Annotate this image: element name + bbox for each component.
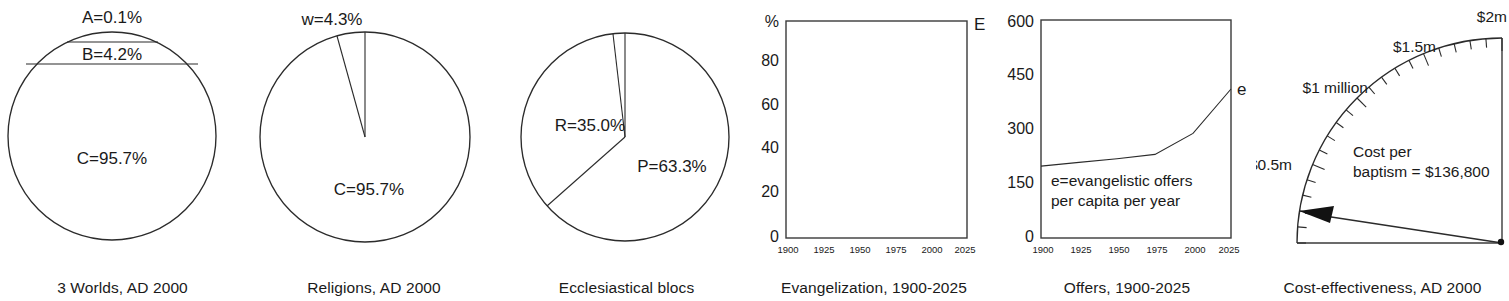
offers-xtick-1950: 1950 bbox=[1108, 244, 1129, 255]
gauge-minor-tick bbox=[1303, 195, 1312, 197]
gauge-minor-tick bbox=[1336, 123, 1343, 128]
gauge-minor-tick bbox=[1409, 60, 1413, 68]
evangelization-xtick-1950: 1950 bbox=[849, 244, 870, 255]
evangelization-y-unit: % bbox=[765, 13, 779, 30]
evangelization-plot-frame bbox=[786, 21, 967, 238]
evangelization-ytick-60: 60 bbox=[761, 96, 779, 113]
offers-xtick-1900: 1900 bbox=[1032, 244, 1053, 255]
figure-strip: A=0.1% B=4.2% C=95.7% 3 Worlds, AD 2000 … bbox=[0, 0, 1509, 301]
evangelization-xtick-1900: 1900 bbox=[777, 244, 798, 255]
offers-ytick-450: 450 bbox=[1007, 66, 1034, 83]
gauge-needle bbox=[1305, 213, 1502, 243]
panel-offers: 600 450 300 150 0 1900 1925 1950 1975 20… bbox=[998, 0, 1256, 301]
evangelization-ytick-40: 40 bbox=[761, 139, 779, 156]
religions-chart: w=4.3% C=95.7% bbox=[245, 0, 503, 270]
gauge-pivot bbox=[1498, 239, 1504, 245]
gauge-major-tick bbox=[1313, 165, 1325, 170]
gauge-minor-tick bbox=[1369, 87, 1375, 94]
gauge-minor-tick bbox=[1298, 227, 1307, 228]
offers-ytick-0: 0 bbox=[1025, 228, 1034, 245]
evangelization-xtick-2000: 2000 bbox=[921, 244, 942, 255]
offers-ytick-600: 600 bbox=[1007, 13, 1034, 30]
offers-xtick-1925: 1925 bbox=[1070, 244, 1091, 255]
caption-evangelization: Evangelization, 1900-2025 bbox=[750, 279, 998, 297]
evangelization-xtick-1975: 1975 bbox=[885, 244, 906, 255]
gauge-minor-tick bbox=[1395, 68, 1400, 76]
offers-series-line bbox=[1041, 89, 1231, 166]
caption-religions: Religions, AD 2000 bbox=[245, 279, 503, 297]
offers-xtick-2000: 2000 bbox=[1184, 244, 1205, 255]
label-b: B=4.2% bbox=[82, 45, 142, 64]
panel-three-worlds: A=0.1% B=4.2% C=95.7% 3 Worlds, AD 2000 bbox=[0, 0, 245, 301]
offers-note-line-2: per capita per year bbox=[1051, 192, 1180, 209]
gauge-major-tick bbox=[1424, 54, 1429, 66]
gauge-label-0-5m: $0.5m bbox=[1256, 156, 1292, 173]
label-p: P=63.3% bbox=[637, 157, 706, 176]
label-c: C=95.7% bbox=[334, 180, 404, 199]
offers-ytick-150: 150 bbox=[1007, 174, 1034, 191]
gauge-minor-tick bbox=[1486, 39, 1487, 48]
gauge-minor-tick bbox=[1470, 41, 1471, 50]
gauge-major-tick bbox=[1357, 98, 1366, 107]
evangelization-ytick-20: 20 bbox=[761, 183, 779, 200]
gauge-minor-tick bbox=[1439, 48, 1442, 57]
three-worlds-chart: A=0.1% B=4.2% C=95.7% bbox=[0, 0, 245, 270]
evangelization-ytick-80: 80 bbox=[761, 52, 779, 69]
evangelization-ytick-0: 0 bbox=[770, 228, 779, 245]
cost-effectiveness-gauge: $0.5m $1 million $1.5m $2m Cost per bapt… bbox=[1256, 0, 1509, 270]
gauge-label-1m: $1 million bbox=[1303, 79, 1368, 96]
gauge-minor-tick bbox=[1454, 44, 1456, 53]
gauge-minor-tick bbox=[1346, 110, 1353, 116]
caption-offers: Offers, 1900-2025 bbox=[998, 279, 1256, 297]
offers-ytick-300: 300 bbox=[1007, 120, 1034, 137]
evangelization-xtick-2025: 2025 bbox=[954, 244, 975, 255]
caption-cost-effectiveness: Cost-effectiveness, AD 2000 bbox=[1256, 279, 1509, 297]
panel-cost-effectiveness: $0.5m $1 million $1.5m $2m Cost per bapt… bbox=[1256, 0, 1509, 301]
caption-ecclesiastical-blocs: Ecclesiastical blocs bbox=[503, 279, 750, 297]
ecclesiastical-blocs-chart: R=35.0% P=63.3% bbox=[503, 0, 750, 270]
gauge-needle-arrowhead bbox=[1299, 206, 1334, 223]
offers-xtick-1975: 1975 bbox=[1146, 244, 1167, 255]
gauge-label-1-5m: $1.5m bbox=[1393, 38, 1436, 55]
gauge-note-line-1: Cost per bbox=[1353, 143, 1412, 160]
evangelization-series-label: E bbox=[974, 15, 985, 34]
evangelization-chart: % 80 60 40 20 0 1900 1925 1950 1975 2000… bbox=[750, 0, 998, 270]
offers-note-line-1: e=evangelistic offers bbox=[1051, 172, 1193, 189]
evangelization-xtick-1925: 1925 bbox=[813, 244, 834, 255]
panel-religions: w=4.3% C=95.7% Religions, AD 2000 bbox=[245, 0, 503, 301]
blocs-edge-p-r bbox=[547, 137, 625, 206]
label-r: R=35.0% bbox=[555, 116, 625, 135]
gauge-label-2m: $2m bbox=[1477, 8, 1507, 25]
offers-xtick-2025: 2025 bbox=[1218, 244, 1239, 255]
label-a: A=0.1% bbox=[82, 8, 142, 27]
offers-chart: 600 450 300 150 0 1900 1925 1950 1975 20… bbox=[998, 0, 1256, 270]
offers-series-label: e bbox=[1237, 80, 1246, 99]
caption-three-worlds: 3 Worlds, AD 2000 bbox=[0, 279, 245, 297]
gauge-minor-tick bbox=[1319, 150, 1327, 154]
panel-evangelization: % 80 60 40 20 0 1900 1925 1950 1975 2000… bbox=[750, 0, 998, 301]
label-w: w=4.3% bbox=[301, 10, 363, 29]
gauge-minor-tick bbox=[1382, 77, 1387, 84]
gauge-minor-tick bbox=[1327, 136, 1335, 141]
panel-ecclesiastical-blocs: R=35.0% P=63.3% Ecclesiastical blocs bbox=[503, 0, 750, 301]
gauge-minor-tick bbox=[1307, 180, 1316, 183]
religions-wedge-edge-end bbox=[337, 36, 365, 137]
label-c: C=95.7% bbox=[77, 149, 147, 168]
gauge-note-line-2: baptism = $136,800 bbox=[1353, 163, 1490, 180]
